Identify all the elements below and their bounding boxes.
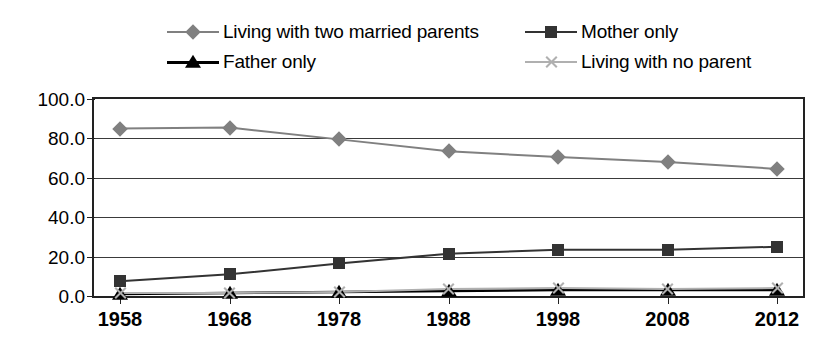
legend-marker	[185, 24, 201, 40]
data-point-marker	[441, 282, 456, 297]
x-marker-stroke	[333, 286, 345, 298]
legend-label: Living with no parent	[581, 52, 751, 71]
legend-marker	[185, 54, 201, 67]
data-point-marker	[332, 285, 347, 300]
data-point-marker	[224, 268, 236, 280]
series-lines	[94, 99, 803, 296]
x-marker-stroke	[545, 55, 557, 67]
chart-container: Living with two married parents Mother o…	[0, 0, 837, 357]
y-axis-tick-label: 0.0	[59, 287, 85, 306]
plot-area: 0.020.040.060.080.0100.0 195819681978198…	[92, 97, 805, 298]
legend-label: Mother only	[581, 22, 678, 41]
x-marker-stroke	[114, 287, 126, 299]
x-axis-tick	[777, 296, 778, 304]
legend-row: Living with two married parents Mother o…	[0, 18, 837, 45]
square-marker-icon	[525, 22, 577, 42]
data-point-marker	[662, 244, 674, 256]
legend-item-mother-only[interactable]: Mother only	[525, 18, 678, 45]
legend-label: Father only	[223, 52, 316, 71]
legend-item-living-with-two-married-parents[interactable]: Living with two married parents	[167, 18, 479, 45]
x-marker-stroke	[223, 287, 235, 299]
legend-item-father-only[interactable]: Father only	[167, 48, 316, 75]
y-axis-tick-label: 100.0	[37, 90, 85, 109]
y-axis-tick-label: 20.0	[48, 247, 85, 266]
x-axis-tick	[449, 296, 450, 304]
x-axis-tick-label: 1998	[536, 309, 581, 329]
y-axis-tick-label: 80.0	[48, 129, 85, 148]
plot-wrapper: 0.020.040.060.080.0100.0 195819681978198…	[0, 88, 837, 357]
y-axis-tick-label: 60.0	[48, 168, 85, 187]
legend-marker	[544, 54, 559, 69]
data-point-marker	[552, 244, 564, 256]
x-axis-tick-label: 2008	[645, 309, 690, 329]
x-axis-tick-label: 1958	[98, 309, 143, 329]
x-marker-stroke	[661, 283, 673, 295]
x-axis-tick	[668, 296, 669, 304]
data-point-marker	[113, 286, 128, 301]
x-marker-icon	[525, 52, 577, 72]
x-axis-tick-label: 1968	[207, 309, 252, 329]
data-point-marker	[333, 257, 345, 269]
legend-label: Living with two married parents	[223, 22, 479, 41]
data-point-marker	[660, 282, 675, 297]
x-marker-stroke	[552, 282, 564, 294]
x-axis-tick-label: 2012	[755, 309, 800, 329]
x-marker-stroke	[771, 282, 783, 294]
data-point-marker	[222, 286, 237, 301]
chart-legend: Living with two married parents Mother o…	[0, 18, 837, 80]
data-point-marker	[770, 281, 785, 296]
x-axis-tick-label: 1988	[426, 309, 471, 329]
y-axis-tick	[87, 296, 95, 297]
data-point-marker	[443, 248, 455, 260]
x-marker-stroke	[442, 283, 454, 295]
legend-marker	[545, 26, 557, 38]
y-axis-tick-label: 40.0	[48, 208, 85, 227]
x-axis-tick	[558, 296, 559, 304]
legend-item-living-with-no-parent[interactable]: Living with no parent	[525, 48, 751, 75]
data-point-marker	[551, 281, 566, 296]
diamond-marker-icon	[167, 22, 219, 42]
x-axis-tick-label: 1978	[317, 309, 362, 329]
triangle-marker-icon	[167, 52, 219, 72]
data-point-marker	[771, 241, 783, 253]
legend-row: Father only Living with no parent	[0, 48, 837, 75]
